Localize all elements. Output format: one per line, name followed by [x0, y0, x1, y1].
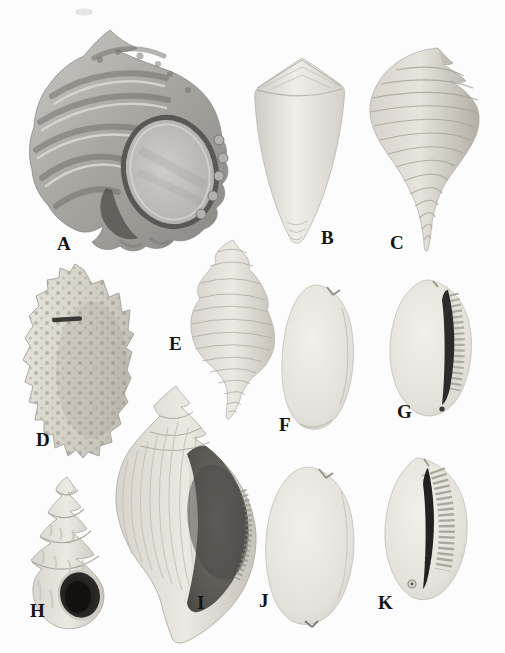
shell-a-image	[30, 30, 228, 251]
shell-i-image	[116, 386, 256, 643]
specimen-label-f: F	[279, 415, 291, 434]
specimen-label-j: J	[259, 591, 269, 610]
specimen-label-g: G	[397, 402, 412, 421]
shell-j-image	[266, 467, 354, 627]
specimen-label-c: C	[390, 233, 404, 252]
shell-e-image	[191, 240, 275, 419]
specimen-label-a: A	[57, 234, 71, 253]
shell-b-image	[255, 58, 345, 243]
shell-c-image	[370, 48, 479, 251]
shell-k-image	[385, 458, 467, 600]
specimen-label-h: H	[30, 601, 45, 620]
specimen-plate: A B C D E F G H I J K	[0, 0, 505, 653]
specimen-label-b: B	[321, 228, 334, 247]
plate-illustration	[0, 0, 505, 653]
specimen-label-d: D	[36, 430, 50, 449]
specimen-label-i: I	[197, 593, 204, 612]
photo-artifact-smudge	[75, 9, 93, 16]
shell-f-image	[282, 285, 354, 429]
shell-g-image	[390, 280, 472, 416]
specimen-label-e: E	[169, 334, 182, 353]
specimen-label-k: K	[378, 593, 393, 612]
